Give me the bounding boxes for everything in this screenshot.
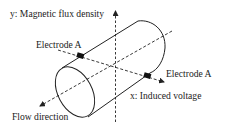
x-axis-label: x: Induced voltage xyxy=(130,91,201,101)
electrode-right-label: Electrode A xyxy=(166,69,212,79)
flow-direction-label: Flow direction xyxy=(12,112,68,122)
electrode-top-label: Electrode A xyxy=(36,40,82,50)
y-axis-label: y: Magnetic flux density xyxy=(10,9,104,19)
cylinder-back-rim xyxy=(138,21,165,73)
